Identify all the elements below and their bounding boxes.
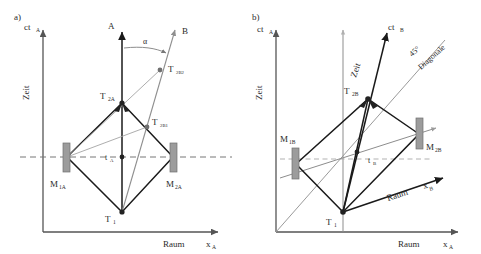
- panel-a-mirror-M2A-sub: 2A: [175, 184, 182, 190]
- panel-a-vertical-axis-label: ct: [24, 22, 31, 32]
- panel-a-horizontal-axis-name: Raum: [163, 239, 185, 249]
- panel-b-event-T1-label: T: [326, 217, 332, 227]
- panel-a-diagram: a) ct A Zeit Raum x A A B α M: [0, 0, 240, 254]
- panel-a-event-T2A-label: T: [100, 91, 106, 101]
- panel-a-event-tA-sub: A: [110, 158, 114, 163]
- panel-a-mirror-M1A-sub: 1A: [59, 184, 66, 190]
- panel-b-vertical-axis-name: Zeit: [254, 85, 264, 100]
- panel-a-event-tA-node: [120, 155, 125, 160]
- panel-a-event-T2B1-sub: 2B1: [160, 123, 169, 128]
- panel-a-vertical-axis-name: Zeit: [21, 85, 31, 100]
- panel-a-mirror-M1A-label: M: [50, 179, 58, 189]
- panel-b-mirror-M1B-label: M: [280, 134, 288, 144]
- panel-b-horizontal-axis-label: x: [443, 239, 448, 249]
- panel-a-horizontal-axis-sub: A: [212, 244, 216, 250]
- panel-b-event-tB-node: [355, 150, 360, 155]
- panel-b-event-tB-sub: B: [373, 161, 376, 166]
- panel-b-horizontal-axis-sub: A: [449, 244, 453, 250]
- panel-a-event-T2B1-label: T: [152, 117, 158, 127]
- panel-a-tag: a): [14, 12, 21, 22]
- panel-b-moving-time-axis-name: Zeit: [348, 61, 362, 78]
- panel-b-mirror-M1B-sub: 1B: [289, 139, 296, 145]
- panel-a-worldline-B-label: B: [182, 26, 188, 36]
- panel-a-mirror-M2A-label: M: [166, 179, 174, 189]
- panel-b-moving-time-axis-sub: B: [400, 27, 404, 33]
- panel-a-event-T2B2-sub: 2B2: [176, 70, 185, 75]
- panel-b-mirror-M2B: [416, 118, 423, 149]
- panel-b-moving-space-axis-sub: B: [428, 185, 434, 192]
- panel-b-event-T2B-sub: 2B: [352, 91, 359, 97]
- panel-a-event-T2A-sub: 2A: [108, 96, 115, 102]
- panel-a-vertical-axis-sub: A: [36, 27, 40, 33]
- panel-b-moving-time-axis-label: ct: [388, 22, 395, 32]
- panel-b-event-tB-label: t: [368, 156, 371, 165]
- panel-a-angle-arc: [124, 47, 166, 53]
- panel-a-event-T1-sub: 1: [113, 219, 116, 225]
- panel-a-horizontal-axis-label: x: [206, 239, 211, 249]
- panel-b-vertical-axis-label: ct: [257, 24, 264, 34]
- panel-b-mirror-M2B-label: M: [426, 142, 434, 152]
- panel-b-event-T1-node: [340, 209, 346, 215]
- panel-a-event-T2A-node: [119, 100, 124, 105]
- panel-b-horizontal-axis-name: Raum: [398, 239, 420, 249]
- panel-b-tag: b): [252, 12, 260, 22]
- panel-b-event-T2B-label: T: [344, 86, 350, 96]
- panel-b-central-worldline: [343, 99, 368, 212]
- panel-a-mirror-M1A: [63, 143, 70, 172]
- panel-b-event-T2B-node: [365, 96, 371, 102]
- panel-a-event-T2B1-node: [145, 125, 150, 130]
- panel-b-mirror-M1B: [292, 148, 299, 179]
- panel-a-event-T2B2-node: [158, 68, 163, 73]
- panel-b-moving-space-axis-name: Raum: [386, 187, 410, 203]
- panel-a-event-T2B2-label: T: [168, 64, 174, 74]
- panel-a-mirror-M2A: [170, 143, 177, 172]
- panel-b-diagonal-angle-label: 45°: [407, 44, 421, 58]
- panel-a-ray-to-T2B2: [67, 70, 160, 157]
- panel-b-diagram: b) ct A Zeit Raum x A 45° Diagonale ct B…: [240, 0, 481, 254]
- panel-a-event-tA-label: t: [105, 153, 108, 162]
- panel-a-angle-label: α: [143, 37, 148, 46]
- panel-b-diagonal-name-label: Diagonale: [416, 42, 447, 71]
- panel-a-event-T1-node: [119, 209, 124, 214]
- panel-a-event-T1-label: T: [105, 214, 111, 224]
- panel-b-vertical-axis-sub: A: [269, 29, 273, 35]
- figure-root: a) ct A Zeit Raum x A A B α M: [0, 0, 481, 254]
- panel-b-mirror-M2B-sub: 2B: [435, 147, 442, 153]
- panel-b-event-T1-sub: 1: [334, 222, 337, 228]
- panel-a-worldline-A-label: A: [108, 21, 115, 31]
